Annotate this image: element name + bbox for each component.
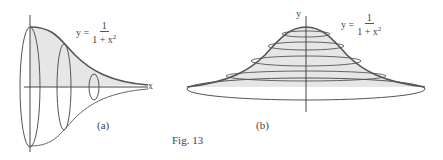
panel-b-y-axis-label: y	[296, 8, 301, 19]
panel-a-x-axis-label: x	[148, 80, 153, 91]
panel-a-lower-curve	[30, 89, 148, 146]
panel-b-drawing	[187, 16, 425, 112]
panel-a-equation-exponent: 2	[113, 33, 117, 41]
panel-b-equation-numerator: 1	[365, 12, 374, 24]
panel-a-equation: y = 1 1 + x2	[76, 20, 116, 45]
panel-a-equation-denominator: 1 + x	[92, 34, 113, 45]
panel-b-equation-denominator: 1 + x	[357, 26, 378, 37]
panel-b-equation-lhs: y =	[341, 19, 354, 30]
panel-b-label: (b)	[256, 119, 269, 131]
panel-b-equation: y = 1 1 + x2	[341, 12, 381, 37]
panel-a-label: (a)	[97, 119, 109, 131]
panel-b-equation-exponent: 2	[378, 25, 382, 33]
figure-caption: Fig. 13	[172, 134, 203, 146]
panel-a-equation-numerator: 1	[100, 20, 109, 32]
panel-a-equation-lhs: y =	[76, 27, 89, 38]
